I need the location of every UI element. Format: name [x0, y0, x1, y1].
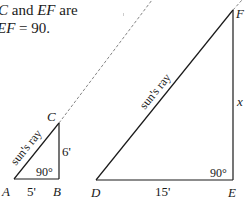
small-triangle: A B C 5' 6' 90° sun's ray	[1, 0, 152, 199]
scan-speck	[123, 13, 124, 16]
vertex-f-label: F	[235, 6, 245, 21]
vertex-a-label: A	[1, 184, 10, 199]
similar-triangles-diagram: A B C 5' 6' 90° sun's ray D E F 15' x 90…	[0, 0, 246, 200]
height-bc-length: 6'	[62, 144, 71, 159]
vertex-e-label: E	[227, 185, 236, 200]
base-ab-length: 5'	[27, 184, 36, 199]
vertex-d-label: D	[90, 185, 101, 200]
base-de-length: 15'	[155, 184, 170, 199]
right-angle-b-label: 90°	[36, 165, 53, 179]
segment-df-sun-ray	[96, 10, 233, 180]
right-angle-e-label: 90°	[210, 166, 227, 180]
vertex-b-label: B	[53, 184, 61, 199]
vertex-c-label: C	[47, 109, 56, 124]
height-ef-label: x	[236, 94, 243, 109]
large-triangle: D E F 15' x 90° sun's ray	[90, 0, 245, 200]
